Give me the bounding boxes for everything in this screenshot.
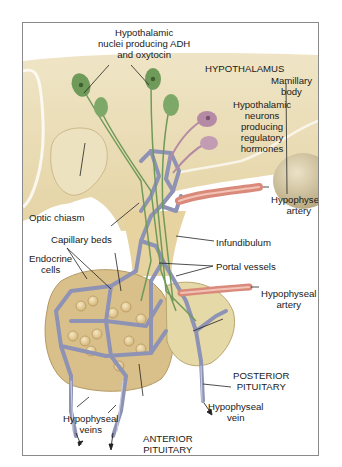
- label-anterior-pituitary: ANTERIOR PITUITARY: [143, 433, 193, 455]
- label-hypothalamus: HYPOTHALAMUS: [205, 63, 284, 74]
- label-hypophyseal-artery-upper: Hypophyseal artery: [271, 194, 319, 216]
- label-hypophyseal-artery-lower: Hypophyseal artery: [261, 288, 316, 310]
- label-hypophyseal-veins: Hypophyseal veins: [63, 413, 118, 435]
- label-mamillary-body: Mamillary body: [271, 75, 312, 97]
- label-infundibulum: Infundibulum: [216, 237, 271, 248]
- label-portal-vessels: Portal vessels: [216, 261, 276, 272]
- label-regulatory-neurons: Hypothalamic neurons producing regulator…: [233, 99, 291, 154]
- label-posterior-pituitary: POSTERIOR PITUITARY: [233, 370, 290, 392]
- label-endocrine-cells: Endocrine cells: [29, 253, 72, 275]
- label-capillary-beds: Capillary beds: [51, 234, 112, 245]
- label-hypothalamic-nuclei: Hypothalamic nuclei producing ADH and ox…: [98, 27, 190, 60]
- label-hypophyseal-vein: Hypophyseal vein: [208, 401, 263, 423]
- diagram-frame: Hypothalamic nuclei producing ADH and ox…: [22, 22, 319, 456]
- label-optic-chiasm: Optic chiasm: [29, 212, 84, 223]
